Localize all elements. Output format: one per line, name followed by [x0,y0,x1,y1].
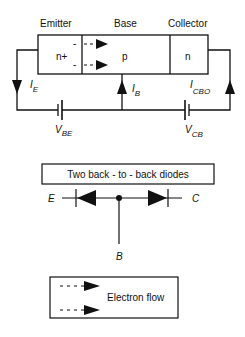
diode-left-icon [77,190,96,206]
electron-mark-1: - [73,38,76,49]
base-heading: Base [114,18,137,29]
diode-title: Two back - to - back diodes [67,169,189,180]
transistor-diagram: Emitter Base Collector n+ p n - - [0,0,245,337]
icbo-label: ICBO [190,79,210,96]
base-doping: p [122,51,128,62]
ie-arrow-down-icon [12,80,22,94]
electron-arrow-icon [96,39,108,49]
diode-right-icon [148,190,167,206]
emitter-heading: Emitter [40,18,72,29]
battery-vbe-icon [58,100,62,120]
legend-arrow-icon [84,305,100,315]
terminal-c: C [192,193,200,204]
vbe-label: VBE [55,124,73,138]
icbo-arrow-up-icon [225,80,235,94]
terminal-b: B [116,251,123,262]
emitter-doping: n+ [56,51,68,62]
ib-arrow-up-icon [117,80,127,94]
electron-flow-arrows: - - [73,38,108,70]
ib-label: IB [132,83,141,98]
legend-label: Electron flow [107,292,165,303]
legend: Electron flow [50,277,178,318]
battery-vcb-icon [185,100,189,120]
ie-label: IE [30,79,39,94]
legend-arrow-icon [84,281,100,291]
terminal-e: E [48,193,55,204]
diode-model: Two back - to - back diodes E C B [42,164,214,262]
collector-doping: n [185,51,191,62]
electron-mark-2: - [73,59,76,70]
vcb-label: VCB [185,124,203,139]
electron-arrow-icon [96,60,108,70]
collector-heading: Collector [168,18,208,29]
